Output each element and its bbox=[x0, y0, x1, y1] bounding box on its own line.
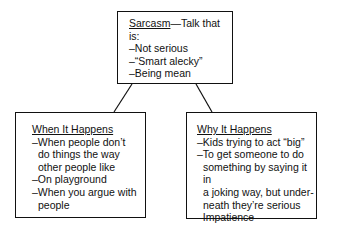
item-text: –To get someone to do bbox=[197, 148, 304, 160]
list-item: –Being mean bbox=[129, 67, 232, 80]
item-text: –Kids trying to act “big” bbox=[197, 136, 304, 148]
item-text: –When people don’t bbox=[32, 136, 125, 148]
list-item: –On playground bbox=[32, 173, 145, 186]
list-item: –To get someone to do something by sayin… bbox=[197, 148, 316, 211]
list-item: –Impatience bbox=[197, 211, 316, 224]
item-text: neath they’re serious bbox=[197, 199, 316, 212]
item-text: –On playground bbox=[32, 173, 107, 185]
sarcasm-box: Sarcasm—Talk that is: –Not serious –“Sma… bbox=[117, 11, 233, 84]
sarcasm-title: Sarcasm bbox=[129, 17, 170, 29]
item-text: –When you argue with bbox=[32, 186, 136, 198]
when-title: When It Happens bbox=[32, 123, 145, 136]
when-it-happens-box: When It Happens –When people don’t do th… bbox=[15, 112, 146, 218]
why-it-happens-box: Why It Happens –Kids trying to act “big”… bbox=[186, 112, 317, 219]
item-text: people bbox=[32, 199, 145, 212]
list-item: –When you argue with people bbox=[32, 186, 145, 211]
list-item: –Not serious bbox=[129, 42, 232, 55]
item-text: –Impatience bbox=[197, 211, 254, 223]
why-title: Why It Happens bbox=[197, 123, 316, 136]
item-text: a joking way, but under- bbox=[197, 186, 316, 199]
list-item: –Kids trying to act “big” bbox=[197, 136, 316, 149]
list-item: –“Smart alecky” bbox=[129, 55, 232, 68]
item-text: other people like bbox=[32, 161, 145, 174]
list-item: –When people don’t do things the way oth… bbox=[32, 136, 145, 174]
sarcasm-heading: Sarcasm—Talk that is: bbox=[129, 17, 232, 42]
item-text: something by saying it in bbox=[197, 161, 316, 186]
item-text: do things the way bbox=[32, 148, 145, 161]
